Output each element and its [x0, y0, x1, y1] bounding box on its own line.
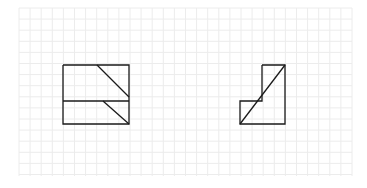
- figure-stroke: [97, 65, 129, 97]
- grid-diagram: [0, 0, 367, 188]
- background-grid: [19, 8, 352, 176]
- right-figure: [240, 65, 285, 124]
- figure-stroke: [103, 101, 129, 124]
